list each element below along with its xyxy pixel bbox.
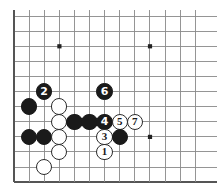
stone-move-number: 4 [101, 116, 109, 127]
stone-black[interactable] [21, 129, 37, 145]
move-stone-1[interactable]: 1 [96, 144, 112, 160]
stone-move-number: 7 [132, 116, 138, 127]
move-stone-7[interactable]: 7 [127, 114, 143, 130]
stone-move-number: 5 [117, 116, 123, 127]
move-stone-2[interactable]: 2 [36, 83, 52, 99]
stone-black[interactable] [66, 114, 82, 130]
move-stone-5[interactable]: 5 [112, 114, 128, 130]
stone-layer: 2645731 [0, 0, 217, 194]
stone-white[interactable] [51, 144, 67, 160]
stone-black[interactable] [112, 129, 128, 145]
stone-white[interactable] [36, 159, 52, 175]
move-stone-6[interactable]: 6 [96, 83, 112, 99]
stone-black[interactable] [81, 114, 97, 130]
stone-black[interactable] [36, 129, 52, 145]
stone-move-number: 1 [102, 146, 108, 157]
stone-white[interactable] [51, 98, 67, 114]
move-stone-4[interactable]: 4 [96, 114, 112, 130]
move-stone-3[interactable]: 3 [96, 129, 112, 145]
stone-move-number: 6 [101, 86, 109, 97]
go-board-diagram: 2645731 [0, 0, 217, 194]
stone-black[interactable] [21, 98, 37, 114]
stone-white[interactable] [51, 114, 67, 130]
stone-move-number: 3 [102, 131, 108, 142]
stone-move-number: 2 [40, 86, 48, 97]
stone-white[interactable] [51, 129, 67, 145]
